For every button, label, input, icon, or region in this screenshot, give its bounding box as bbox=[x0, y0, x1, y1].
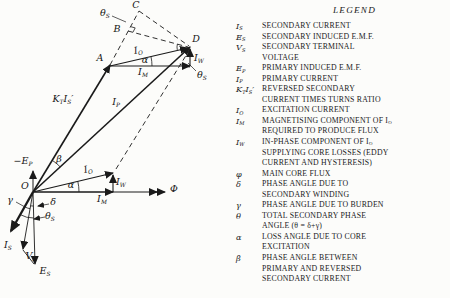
legend-line: CURRENT TIMES TURNS RATIO bbox=[262, 95, 450, 106]
legend-line: SECONDARY CURRENT bbox=[262, 274, 450, 285]
legend-line: TOTAL SECONDARY PHASE bbox=[262, 211, 450, 222]
label-iw-large: IW bbox=[194, 53, 204, 63]
label-alpha-large: α bbox=[142, 55, 148, 65]
legend-entry-is: ISSECONDARY CURRENT bbox=[229, 21, 450, 32]
legend-text-delta: PHASE ANGLE DUE TOSECONDARY WINDING bbox=[262, 179, 450, 200]
label-theta-s-bottom: θS bbox=[45, 211, 55, 221]
label-ktis: KTIS′ bbox=[53, 94, 74, 104]
legend-line: PRIMARY AND REVERSED bbox=[262, 264, 450, 275]
legend-entry-iw: IWIN-PHASE COMPONENT OF IOSUPPLYING CORE… bbox=[229, 137, 450, 169]
alpha-arc-large bbox=[151, 57, 152, 66]
legend-line: PRIMARY INDUCED E.M.F. bbox=[262, 63, 450, 74]
theta-s-arc-bottom bbox=[20, 215, 34, 218]
legend-line: PRIMARY CURRENT bbox=[262, 74, 450, 85]
legend-text-is: SECONDARY CURRENT bbox=[262, 21, 450, 32]
label-beta: β bbox=[56, 154, 62, 164]
legend-entry-gamma: γPHASE ANGLE DUE TO BURDEN bbox=[229, 200, 450, 211]
legend-text-gamma: PHASE ANGLE DUE TO BURDEN bbox=[262, 200, 450, 211]
legend-symbol-gamma: γ bbox=[229, 200, 262, 211]
legend-symbol-alpha: α bbox=[229, 232, 262, 243]
legend-text-beta: PHASE ANGLE BETWEENPRIMARY AND REVERSEDS… bbox=[262, 253, 450, 285]
legend-symbol-ep: EP bbox=[229, 63, 262, 74]
label-neg-ep: −EP bbox=[14, 156, 33, 166]
label-theta-s-top: θS bbox=[100, 8, 110, 18]
legend-text-theta: TOTAL SECONDARY PHASEANGLE (θ = δ+γ) bbox=[262, 211, 450, 232]
legend-symbol-iw: IW bbox=[229, 137, 262, 148]
legend-line: REVERSED SECONDARY bbox=[262, 84, 450, 95]
legend-symbol-ip: IP bbox=[229, 74, 262, 85]
legend-symbol-is: IS bbox=[229, 21, 262, 32]
label-point-a: A bbox=[97, 53, 104, 63]
label-iw-small: IW bbox=[116, 177, 126, 187]
legend-symbol-es: ES bbox=[229, 32, 262, 43]
ktis-vector bbox=[33, 65, 110, 192]
legend-line: VOLTAGE bbox=[262, 53, 450, 64]
legend-text-ip: PRIMARY CURRENT bbox=[262, 74, 450, 85]
ip-vector bbox=[33, 47, 190, 192]
legend-line: SECONDARY INDUCED E.M.F. bbox=[262, 32, 450, 43]
legend-text-alpha: LOSS ANGLE DUE TO COREEXCITATION bbox=[262, 232, 450, 253]
legend-entry-vs: VSSECONDARY TERMINALVOLTAGE bbox=[229, 42, 450, 63]
legend-entry-delta: δPHASE ANGLE DUE TOSECONDARY WINDING bbox=[229, 179, 450, 200]
gamma-leader bbox=[16, 202, 25, 207]
legend-symbol-im: IM bbox=[229, 116, 262, 127]
legend-line: PHASE ANGLE DUE TO BURDEN bbox=[262, 200, 450, 211]
legend-text-phi: MAIN CORE FLUX bbox=[262, 169, 450, 180]
label-gamma: γ bbox=[7, 195, 13, 205]
legend-entry-theta: θTOTAL SECONDARY PHASEANGLE (θ = δ+γ) bbox=[229, 211, 450, 232]
alpha-arc-small bbox=[78, 181, 79, 192]
legend-symbol-vs: VS bbox=[229, 42, 262, 53]
legend-line: SECONDARY WINDING bbox=[262, 190, 450, 201]
legend-symbol-theta: θ bbox=[229, 211, 262, 222]
legend-symbol-io: IO bbox=[229, 105, 262, 116]
label-point-c: C bbox=[132, 0, 139, 10]
legend-text-ktis: REVERSED SECONDARYCURRENT TIMES TURNS RA… bbox=[262, 84, 450, 105]
page: OABCDθSIOαIWIMθSKTIS′IP−EPβIOαIWIMΦγδθSI… bbox=[0, 0, 450, 298]
legend-line: PHASE ANGLE DUE TO bbox=[262, 179, 450, 190]
legend-entry-phi: φMAIN CORE FLUX bbox=[229, 169, 450, 180]
legend-text-vs: SECONDARY TERMINALVOLTAGE bbox=[262, 42, 450, 63]
legend-symbol-phi: φ bbox=[229, 169, 262, 180]
legend-entry-beta: βPHASE ANGLE BETWEENPRIMARY AND REVERSED… bbox=[229, 253, 450, 285]
legend-text-ep: PRIMARY INDUCED E.M.F. bbox=[262, 63, 450, 74]
legend-line: EXCITATION bbox=[262, 242, 450, 253]
legend-entry-ep: EPPRIMARY INDUCED E.M.F. bbox=[229, 63, 450, 74]
legend-entry-io: IOEXCITATION CURRENT bbox=[229, 105, 450, 116]
legend-text-im: MAGNETISING COMPONENT OF IOREQUIRED TO P… bbox=[262, 116, 450, 137]
legend-line: REQUIRED TO PRODUCE FLUX bbox=[262, 126, 450, 137]
legend-text-es: SECONDARY INDUCED E.M.F. bbox=[262, 32, 450, 43]
oa-extension-dashed bbox=[110, 11, 139, 65]
legend-line: SECONDARY CURRENT bbox=[262, 21, 450, 32]
label-vs: VS bbox=[26, 251, 37, 261]
theta-s-bottom-leader bbox=[34, 217, 45, 219]
legend-entry-ip: IPPRIMARY CURRENT bbox=[229, 74, 450, 85]
delta-leader bbox=[38, 204, 49, 206]
legend-line: SUPPLYING CORE LOSSES (EDDY bbox=[262, 148, 450, 159]
legend-line: ANGLE (θ = δ+γ) bbox=[262, 221, 450, 232]
legend-entry-ktis: KTIS′REVERSED SECONDARYCURRENT TIMES TUR… bbox=[229, 84, 450, 105]
legend-line: CURRENT AND HYSTERESIS) bbox=[262, 158, 450, 169]
d-parallelogram-dashed bbox=[116, 49, 190, 169]
legend-panel: LEGEND ISSECONDARY CURRENTESSECONDARY IN… bbox=[229, 0, 450, 298]
legend-entry-alpha: αLOSS ANGLE DUE TO COREEXCITATION bbox=[229, 232, 450, 253]
legend-text-iw: IN-PHASE COMPONENT OF IOSUPPLYING CORE L… bbox=[262, 137, 450, 169]
legend-line: SECONDARY TERMINAL bbox=[262, 42, 450, 53]
legend-symbol-delta: δ bbox=[229, 179, 262, 190]
legend-text-io: EXCITATION CURRENT bbox=[262, 105, 450, 116]
legend-entry-im: IMMAGNETISING COMPONENT OF IOREQUIRED TO… bbox=[229, 116, 450, 137]
legend-line: EXCITATION CURRENT bbox=[262, 105, 450, 116]
label-alpha-small: α bbox=[68, 180, 74, 190]
label-is: IS bbox=[4, 240, 12, 250]
label-point-b: B bbox=[114, 24, 121, 34]
label-ip: IP bbox=[112, 97, 120, 107]
label-im-small: IM bbox=[97, 194, 107, 204]
legend-symbol-beta: β bbox=[229, 253, 262, 264]
legend-line: MAIN CORE FLUX bbox=[262, 169, 450, 180]
label-theta-s-right: θS bbox=[197, 70, 207, 80]
label-phi: Φ bbox=[170, 184, 178, 194]
io-vector-large bbox=[110, 48, 188, 66]
label-es: ES bbox=[40, 266, 51, 276]
label-point-d: D bbox=[192, 34, 200, 44]
legend-symbol-ktis: KTIS′ bbox=[229, 84, 262, 95]
label-im-large: IM bbox=[138, 67, 148, 77]
